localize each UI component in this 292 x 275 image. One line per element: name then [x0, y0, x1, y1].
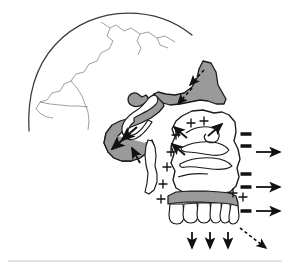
plus-sign — [159, 180, 167, 188]
pterygoid-plate — [145, 140, 157, 194]
nasal-bone-frontal-process — [154, 61, 226, 105]
minus-sign — [241, 144, 252, 148]
skull-diagram-canvas — [0, 0, 292, 275]
plus-sign — [239, 193, 247, 201]
plus-sign — [157, 195, 165, 203]
resorption-markers — [241, 132, 252, 213]
plus-sign — [163, 163, 171, 171]
minus-sign — [241, 209, 252, 213]
maxillary-dentition — [169, 203, 239, 224]
minus-sign — [241, 132, 252, 136]
minus-sign — [241, 172, 252, 176]
cranial-vault — [29, 13, 192, 131]
dashed-arrow-lower-right — [240, 228, 266, 248]
minus-sign — [241, 185, 252, 189]
skull-growth-diagram — [0, 0, 292, 275]
